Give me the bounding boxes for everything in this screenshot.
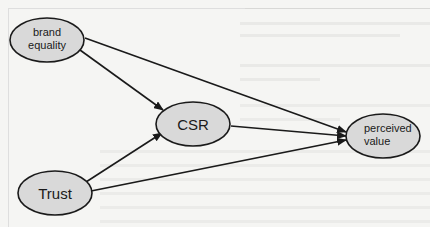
node-label-brand-equality-line1: brand (33, 26, 61, 38)
node-trust: Trust (18, 171, 92, 215)
node-perceived-value: perceived value (346, 114, 420, 158)
node-brand-equality: brand equality (10, 18, 84, 62)
edge-trust-to-perceived-value (91, 140, 346, 191)
diagram-canvas: brand equality CSR Trust perceived value (0, 0, 430, 227)
path-diagram: brand equality CSR Trust perceived value (0, 0, 430, 227)
node-label-trust: Trust (38, 185, 72, 202)
edge-brand-equality-to-csr (80, 50, 163, 110)
edge-csr-to-perceived-value (231, 126, 346, 136)
node-label-brand-equality-line2: equality (28, 39, 66, 51)
node-label-perceived-value-line2: value (364, 135, 390, 147)
node-csr: CSR (156, 102, 230, 146)
node-label-perceived-value-line1: perceived (364, 122, 412, 134)
edge-trust-to-csr (86, 133, 162, 182)
node-label-csr: CSR (177, 116, 209, 133)
